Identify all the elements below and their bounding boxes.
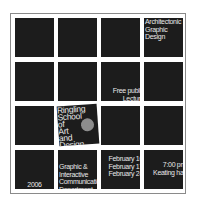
department-line: Department: [59, 186, 97, 190]
subject-line: Architectonic: [145, 18, 181, 26]
date-line: February 17: [109, 163, 140, 171]
year-text: 2006: [15, 181, 54, 189]
department-line: Graphic &: [59, 163, 97, 171]
grid-square-r1c1: [15, 18, 54, 57]
department-line: Communication: [59, 178, 97, 186]
date-line: February 10: [109, 155, 140, 163]
grid-square-r2c2: [58, 62, 97, 101]
grid-square-year: 2006: [15, 150, 54, 189]
school-title-text: Ringling School of Art and Design: [57, 105, 88, 146]
grid-square-r2c1: [15, 62, 54, 101]
grid-square-r1c2: [58, 18, 97, 57]
grid-square-school-title: Ringling School of Art and Design: [57, 104, 100, 147]
subject-text: Architectonic Graphic Design: [145, 18, 181, 41]
grid-square-event: Free public Lecture: [101, 62, 140, 101]
grid-square-r2c4: [144, 62, 183, 101]
event-text: Free public Lecture: [113, 87, 140, 101]
subject-line: Design: [145, 33, 181, 41]
date-line: February 24: [109, 170, 140, 178]
dates-text: February 10 February 17 February 24: [109, 155, 140, 178]
grid-square-department: Graphic & Interactive Communication Depa…: [58, 150, 97, 189]
time-place-text: 7:00 pm Keating hall: [153, 161, 183, 176]
department-text: Graphic & Interactive Communication Depa…: [59, 163, 97, 189]
event-line: Lecture: [113, 95, 140, 102]
grid-square-r1c3: [101, 18, 140, 57]
department-line: Interactive: [59, 171, 97, 179]
time-line: 7:00 pm: [153, 161, 183, 169]
grid-square-subject: Architectonic Graphic Design: [144, 18, 183, 57]
grid-square-dates: February 10 February 17 February 24: [101, 150, 140, 189]
subject-line: Graphic: [145, 26, 181, 34]
place-line: Keating hall: [153, 169, 183, 177]
grid-square-r3c3: [101, 106, 140, 145]
grid-square-time-place: 7:00 pm Keating hall: [144, 150, 183, 189]
grid-square-r3c1: [15, 106, 54, 145]
event-line: Free public: [113, 87, 140, 95]
grid-square-r3c4: [144, 106, 183, 145]
